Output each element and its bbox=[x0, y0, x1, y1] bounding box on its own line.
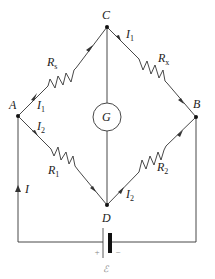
galvanometer-label: G bbox=[102, 110, 111, 124]
current-arrow-db-upper bbox=[177, 130, 183, 137]
current-label-i-total: I bbox=[24, 182, 30, 196]
battery-negative-plate bbox=[108, 233, 112, 253]
current-label-i2-ad: I2 bbox=[36, 119, 45, 135]
node-d bbox=[105, 203, 109, 207]
resistor-label-r2: R2 bbox=[156, 160, 168, 176]
current-label-i1-ac: I1 bbox=[36, 98, 45, 114]
node-label-c: C bbox=[102, 8, 111, 22]
node-label-d: D bbox=[101, 211, 111, 225]
branch-a-d bbox=[18, 116, 107, 205]
current-arrow-ac-upper bbox=[86, 45, 93, 52]
resistor-label-rs: Rs bbox=[46, 55, 57, 71]
current-label-i1-cb: I1 bbox=[125, 27, 134, 43]
battery-emf-label: ℰ bbox=[103, 264, 110, 274]
branch-d-b bbox=[107, 117, 196, 205]
battery-plus-label: + bbox=[94, 247, 100, 257]
wheatstone-bridge-diagram: A B C D G Rs Rx R1 R2 I1 I1 I2 I2 I + − … bbox=[0, 0, 215, 279]
battery-loop bbox=[15, 116, 196, 258]
node-label-b: B bbox=[193, 97, 201, 111]
node-a bbox=[16, 114, 20, 118]
current-arrow-ad-lower bbox=[90, 186, 96, 192]
resistor-label-r1: R1 bbox=[47, 163, 59, 179]
node-label-a: A bbox=[8, 98, 17, 112]
current-arrow-i1-cb bbox=[116, 35, 121, 41]
current-arrow-cb-lower bbox=[178, 98, 184, 104]
branch-c-b bbox=[107, 27, 196, 117]
battery-minus-label: − bbox=[115, 247, 121, 257]
node-c bbox=[105, 25, 109, 29]
current-label-i2-db: I2 bbox=[125, 187, 134, 203]
resistor-label-rx: Rx bbox=[157, 51, 169, 67]
branch-a-c bbox=[18, 27, 107, 116]
resistor-rs bbox=[48, 68, 76, 88]
node-b bbox=[194, 115, 198, 119]
current-arrow-i-total bbox=[15, 185, 21, 192]
